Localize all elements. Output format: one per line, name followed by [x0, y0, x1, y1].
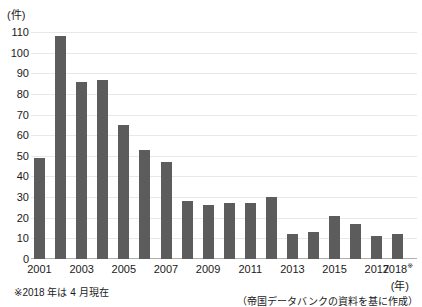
asterisk-note-marker: ※ — [407, 262, 413, 269]
x-tick-label-2015: 2015 — [315, 263, 355, 276]
bar-2002 — [55, 36, 66, 259]
bar-2008 — [182, 201, 193, 259]
x-tick-label-2011: 2011 — [230, 263, 270, 276]
bar-2015 — [329, 216, 340, 259]
y-tick-label-50: 50 — [0, 149, 29, 163]
bar-2006 — [139, 150, 150, 259]
bar-2010 — [224, 203, 235, 259]
y-gridline-30 — [31, 197, 417, 198]
bar-2007 — [161, 162, 172, 259]
y-gridline-100 — [31, 53, 417, 54]
y-tick-label-20: 20 — [0, 211, 29, 225]
x-tick-label-2009: 2009 — [188, 263, 228, 276]
bar-2005 — [118, 125, 129, 259]
y-gridline-40 — [31, 176, 417, 177]
footnote-2018-note: ※2018 年は 4 月現在 — [14, 284, 109, 299]
y-tick-label-80: 80 — [0, 87, 29, 101]
y-tick-label-10: 10 — [0, 231, 29, 245]
y-gridline-50 — [31, 156, 417, 157]
x-tick-label-2007: 2007 — [146, 263, 186, 276]
bar-2013 — [287, 234, 298, 259]
footnote-source-credit: （帝国データバンクの資料を基に作成） — [237, 293, 418, 307]
y-gridline-90 — [31, 73, 417, 74]
x-tick-label-2003: 2003 — [62, 263, 102, 276]
y-gridline-110 — [31, 32, 417, 33]
y-tick-label-110: 110 — [0, 25, 29, 39]
y-tick-label-90: 90 — [0, 66, 29, 80]
bar-2014 — [308, 232, 319, 259]
x-tick-label-2001: 2001 — [20, 263, 60, 276]
plot-area: 0102030405060708090100110200120032005200… — [0, 0, 422, 307]
y-tick-label-100: 100 — [0, 46, 29, 60]
y-tick-label-60: 60 — [0, 128, 29, 142]
y-gridline-70 — [31, 115, 417, 116]
bar-2004 — [97, 80, 108, 260]
y-tick-label-40: 40 — [0, 169, 29, 183]
bar-2003 — [76, 82, 87, 260]
bar-2018 — [392, 234, 403, 259]
bar-2016 — [350, 224, 361, 259]
x-axis-unit-label: (年) — [391, 277, 409, 293]
y-tick-label-30: 30 — [0, 190, 29, 204]
y-tick-label-70: 70 — [0, 108, 29, 122]
y-gridline-80 — [31, 94, 417, 95]
x-tick-label-2018: 2018※ — [378, 263, 418, 276]
y-gridline-60 — [31, 135, 417, 136]
bar-2012 — [266, 197, 277, 259]
bar-chart-figure: (件) 010203040506070809010011020012003200… — [0, 0, 422, 307]
bar-2009 — [203, 205, 214, 259]
bar-2017 — [371, 236, 382, 259]
x-tick-label-2013: 2013 — [273, 263, 313, 276]
bar-2011 — [245, 203, 256, 259]
bar-2001 — [34, 158, 45, 259]
x-tick-label-2005: 2005 — [104, 263, 144, 276]
